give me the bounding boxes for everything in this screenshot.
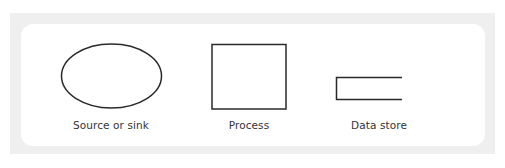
process-label: Process xyxy=(229,119,270,131)
data-store-label: Data store xyxy=(351,119,407,131)
source-or-sink-symbol xyxy=(62,44,162,108)
data-store-symbol xyxy=(337,78,403,100)
source-or-sink-label: Source or sink xyxy=(73,119,149,131)
process-symbol xyxy=(212,45,286,110)
legend-shapes xyxy=(0,0,505,168)
